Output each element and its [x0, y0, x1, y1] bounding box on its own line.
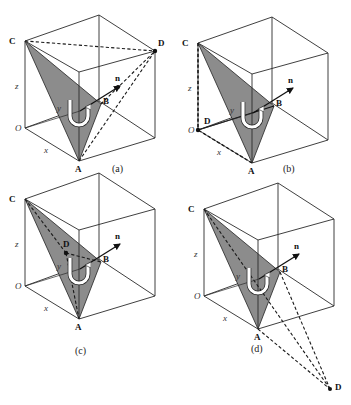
panel-d: D (d): [188, 183, 342, 392]
panel-a: D (a): [9, 15, 165, 175]
caption-c: (c): [75, 345, 86, 357]
point-d: [153, 49, 157, 53]
point-d: [196, 128, 200, 132]
caption-b: (b): [283, 163, 295, 175]
label-d: D: [63, 239, 70, 249]
panel-c: D (c): [9, 173, 155, 357]
caption-d: (d): [251, 343, 263, 355]
caption-a: (a): [112, 163, 123, 175]
point-d: [64, 251, 68, 255]
panel-b: D (b): [182, 17, 328, 176]
label-d: D: [335, 382, 342, 392]
label-d: D: [158, 38, 165, 48]
figure-canvas: z O x y C A B n D (a) D: [0, 0, 351, 405]
point-d: [328, 387, 332, 391]
label-d: D: [204, 116, 211, 126]
